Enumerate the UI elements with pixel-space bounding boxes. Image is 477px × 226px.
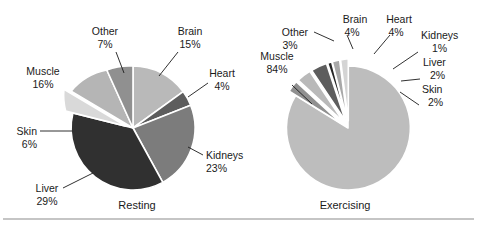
resting-label-other-pct: 7%: [97, 38, 112, 50]
resting-label-other-name: Other: [92, 25, 119, 37]
exercising-label-heart-name: Heart: [386, 13, 412, 25]
resting-label-muscle-pct: 16%: [32, 78, 53, 90]
resting-label-heart-pct: 4%: [214, 80, 229, 92]
resting-pie-chart: Other 7% Brain 15% Heart 4% Kidneys 23% …: [17, 25, 244, 211]
exercising-label-kidneys-pct: 1%: [432, 42, 447, 54]
exercising-label-skin-name: Skin: [422, 83, 443, 95]
exercising-label-brain-pct: 4%: [344, 26, 359, 38]
resting-label-skin-pct: 6%: [22, 138, 37, 150]
resting-label-kidneys-name: Kidneys: [206, 149, 243, 161]
resting-leader-heart: [188, 83, 208, 97]
resting-label-liver-pct: 29%: [36, 195, 57, 207]
resting-label-brain-name: Brain: [178, 25, 203, 37]
figure-root: Other 7% Brain 15% Heart 4% Kidneys 23% …: [0, 0, 477, 226]
exercising-label-liver-pct: 2%: [430, 69, 445, 81]
exercising-leader-other: [314, 32, 334, 41]
resting-leader-liver: [63, 173, 93, 188]
resting-leader-brain: [159, 52, 178, 76]
exercising-label-other-name: Other: [282, 26, 309, 38]
resting-label-heart-name: Heart: [209, 67, 235, 79]
exercising-label-brain-name: Brain: [343, 13, 368, 25]
exercising-label-muscle-pct: 84%: [266, 63, 287, 75]
resting-label-liver-name: Liver: [36, 182, 59, 194]
resting-chart-title: Resting: [118, 199, 155, 211]
exercising-chart-title: Exercising: [320, 199, 371, 211]
resting-label-muscle-name: Muscle: [26, 65, 59, 77]
exercising-leader-liver: [401, 79, 420, 81]
resting-label-kidneys-pct: 23%: [206, 162, 227, 174]
exercising-label-skin-pct: 2%: [428, 96, 443, 108]
exercising-label-liver-name: Liver: [423, 56, 446, 68]
exercising-label-muscle-name: Muscle: [260, 50, 293, 62]
exercising-label-kidneys-name: Kidneys: [421, 29, 458, 41]
resting-label-skin-name: Skin: [17, 125, 38, 137]
exercising-leader-kidneys: [393, 52, 418, 69]
exercising-pie-chart: Brain 4% Heart 4% Kidneys 1% Liver 2% Sk…: [260, 13, 458, 211]
resting-label-brain-pct: 15%: [179, 38, 200, 50]
pie-charts-svg: Other 7% Brain 15% Heart 4% Kidneys 23% …: [0, 0, 477, 226]
exercising-label-heart-pct: 4%: [388, 26, 403, 38]
